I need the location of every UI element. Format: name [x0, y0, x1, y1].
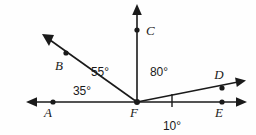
point-label-a: A: [43, 105, 52, 120]
point-b-dot: [63, 50, 68, 55]
angle-label-bfc: 55°: [91, 65, 109, 79]
ray-fe-arrowhead: [236, 97, 247, 107]
point-d-dot: [219, 85, 224, 90]
ray-fa-arrowhead: [26, 97, 37, 107]
angle-label-dfe: 10°: [163, 119, 181, 133]
point-label-b: B: [55, 58, 63, 73]
point-a-dot: [50, 99, 55, 104]
ray-fc: [132, 4, 142, 102]
point-label-f: F: [129, 105, 139, 120]
ray-fd-line: [137, 82, 238, 102]
ray-fc-arrowhead: [132, 4, 142, 15]
point-label-c: C: [146, 23, 155, 38]
point-label-e: E: [214, 105, 223, 120]
angle-label-afb: 35°: [73, 84, 91, 98]
angle-label-cfd: 80°: [150, 65, 168, 79]
ray-fd: [137, 78, 246, 102]
ray-fd-arrowhead: [235, 78, 246, 87]
ray-fa: [26, 97, 137, 107]
point-c-dot: [134, 27, 139, 32]
angle-figure-svg: A B C D E F 55° 35° 80° 10°: [0, 0, 256, 135]
ray-fb-arrowhead: [42, 34, 54, 46]
geometry-diagram: A B C D E F 55° 35° 80° 10°: [0, 0, 256, 135]
point-e-dot: [219, 99, 224, 104]
point-label-d: D: [213, 67, 224, 82]
